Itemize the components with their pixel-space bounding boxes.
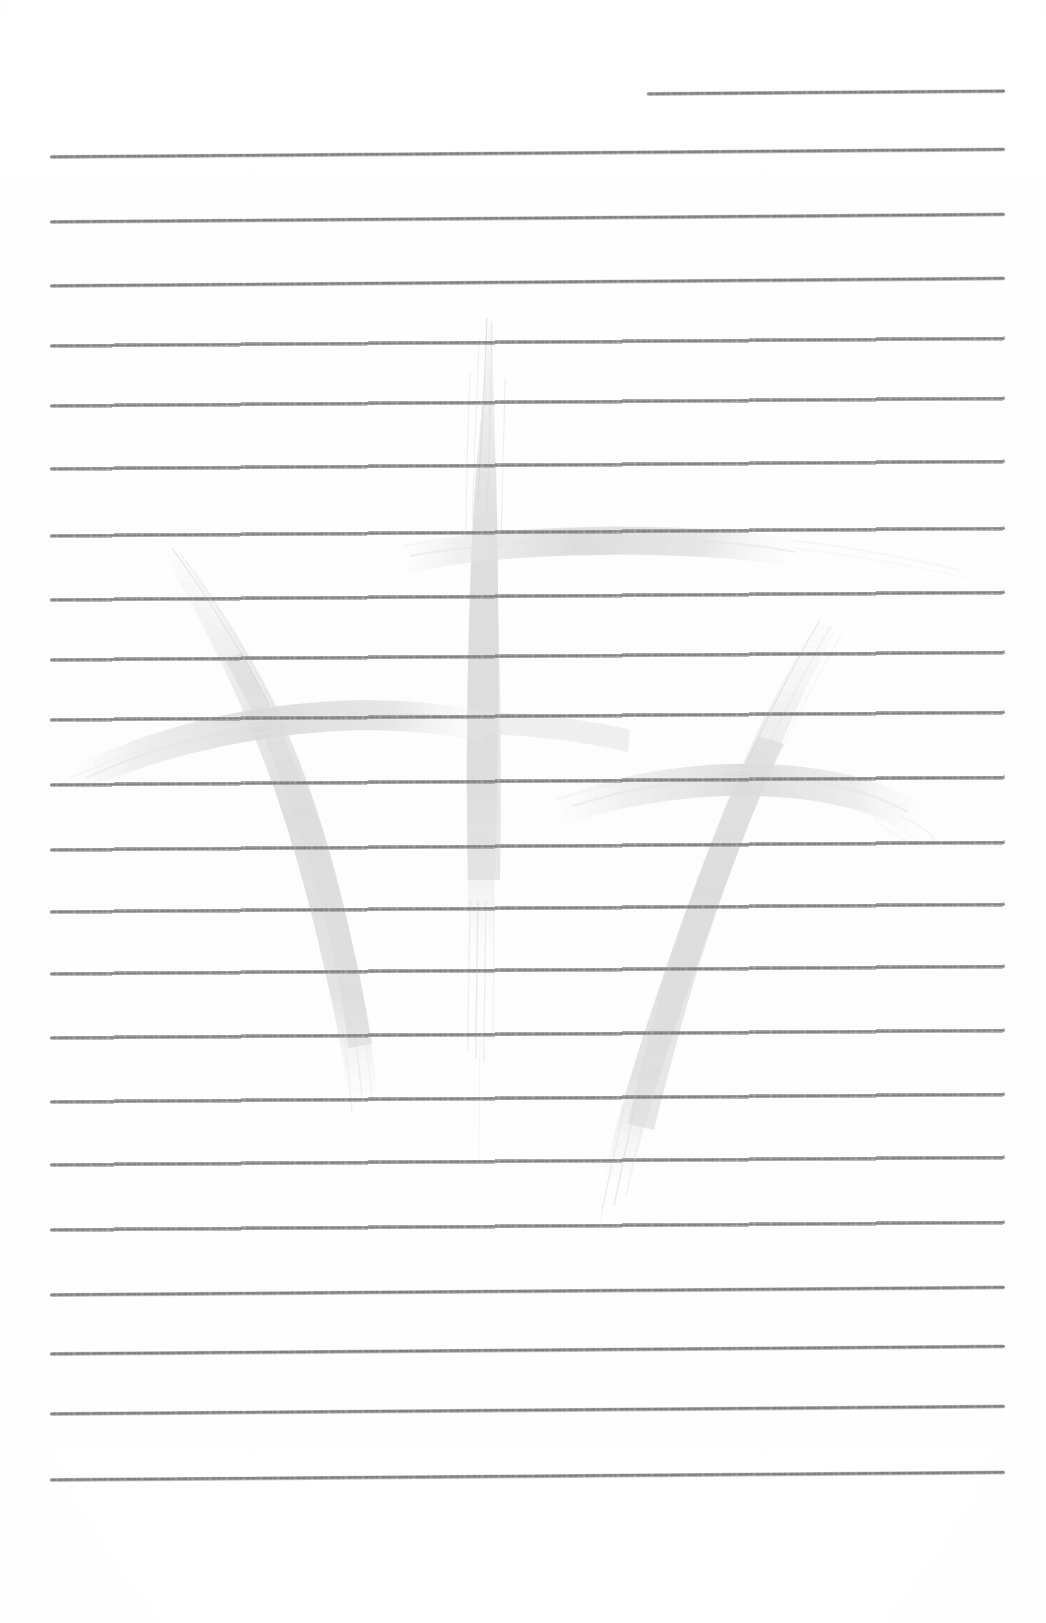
rule-line: [50, 650, 1005, 662]
rule-line: [50, 276, 1005, 288]
rule-line: [50, 1220, 1005, 1232]
brush-calligraphy-watermark: [0, 0, 1046, 1623]
rule-line: [50, 775, 1005, 787]
rule-line: [647, 89, 1005, 96]
rule-line: [50, 1344, 1005, 1356]
rule-line: [50, 212, 1005, 224]
rule-line: [50, 1028, 1005, 1040]
rule-line: [50, 1092, 1005, 1104]
rule-line: [50, 1404, 1005, 1416]
rule-line: [50, 1155, 1005, 1167]
rule-line: [50, 396, 1005, 408]
rule-line: [50, 840, 1005, 852]
rule-line: [50, 1285, 1005, 1297]
rule-line: [50, 336, 1005, 348]
rule-line: [50, 964, 1005, 976]
watermark-stroke-left-vertical: [166, 548, 377, 1112]
rule-line: [50, 710, 1005, 722]
rule-line: [50, 147, 1005, 159]
rule-line: [50, 902, 1005, 914]
scanned-page: [0, 0, 1046, 1623]
watermark-stroke-center-vertical: [466, 318, 505, 1185]
rule-line: [50, 1470, 1005, 1482]
paper-texture: [0, 0, 1046, 1623]
rule-line: [50, 526, 1005, 538]
rule-line: [50, 459, 1005, 471]
rule-line: [50, 590, 1005, 602]
